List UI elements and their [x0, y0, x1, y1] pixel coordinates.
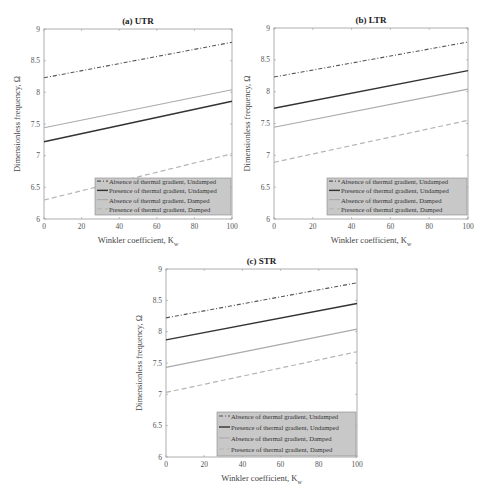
legend: Absence of thermal gradient, UndampedPre…	[217, 412, 356, 456]
x-tick-label: 0	[164, 460, 168, 469]
x-tick-label: 80	[425, 222, 433, 231]
legend-entry: Presence of thermal gradient, Undamped	[341, 187, 450, 194]
y-tick-label: 6.5	[261, 183, 271, 192]
y-tick-label: 7	[266, 151, 270, 160]
y-tick-label: 8.5	[261, 55, 271, 64]
y-tick-label: 8	[36, 88, 40, 97]
x-tick-label: 100	[351, 460, 363, 469]
y-tick-label: 7.5	[153, 359, 163, 368]
x-axis-label: Winkler coefficient, Kw	[221, 473, 302, 485]
y-tick-label: 6.5	[153, 421, 163, 430]
x-tick-label: 80	[191, 222, 199, 231]
legend-entry: Absence of thermal gradient, Undamped	[109, 178, 217, 185]
x-tick-label: 40	[239, 460, 247, 469]
legend-entry: Absence of thermal gradient, Undamped	[341, 178, 449, 185]
y-tick-label: 7	[36, 151, 40, 160]
chart-title: (a) UTR	[122, 16, 154, 26]
legend-entry: Absence of thermal gradient, Damped	[109, 197, 210, 204]
legend-entry: Presence of thermal gradient, Undamped	[109, 187, 218, 194]
x-tick-label: 60	[277, 460, 285, 469]
y-axis-label: Dimensionless frequency, Ω	[242, 75, 252, 171]
legend-entry: Absence of thermal gradient, Undamped	[231, 413, 339, 420]
y-tick-label: 6	[266, 215, 270, 224]
chart-title: (b) LTR	[356, 15, 387, 25]
y-tick-label: 6.5	[31, 183, 41, 192]
legend-entry: Presence of thermal gradient, Damped	[231, 446, 333, 453]
legend-entry: Absence of thermal gradient, Damped	[231, 435, 332, 442]
chart-title: (c) STR	[247, 256, 277, 266]
x-tick-label: 20	[200, 460, 208, 469]
y-tick-label: 8.5	[31, 56, 41, 65]
y-tick-label: 9	[158, 265, 162, 274]
y-tick-label: 8	[266, 87, 270, 96]
legend-entry: Absence of thermal gradient, Damped	[341, 197, 442, 204]
x-tick-label: 40	[348, 222, 356, 231]
x-tick-label: 100	[226, 222, 238, 231]
legend-entry: Presence of thermal gradient, Damped	[341, 206, 443, 213]
chart-panel-1: (a) UTR02040608010066.577.588.59Winkler …	[12, 16, 238, 247]
legend: Absence of thermal gradient, UndampedPre…	[327, 178, 467, 215]
x-tick-label: 0	[42, 222, 46, 231]
y-tick-label: 6	[36, 215, 40, 224]
y-tick-label: 6	[158, 453, 162, 462]
legend-entry: Presence of thermal gradient, Damped	[109, 206, 211, 213]
x-tick-label: 80	[315, 460, 323, 469]
x-tick-label: 40	[115, 222, 123, 231]
x-tick-label: 100	[462, 222, 474, 231]
x-tick-label: 20	[309, 222, 317, 231]
chart-svg: (a) UTR02040608010066.577.588.59Winkler …	[0, 0, 488, 500]
x-tick-label: 0	[272, 222, 276, 231]
y-tick-label: 8.5	[153, 296, 163, 305]
y-tick-label: 7	[158, 390, 162, 399]
legend: Absence of thermal gradient, UndampedPre…	[95, 178, 231, 215]
y-tick-label: 8	[158, 327, 162, 336]
x-axis-label: Winkler coefficient, Kw	[98, 235, 179, 247]
y-tick-label: 9	[266, 24, 270, 33]
x-axis-label: Winkler coefficient, Kw	[331, 235, 412, 247]
chart-panel-2: (b) LTR02040608010066.577.588.59Winkler …	[242, 15, 474, 247]
y-tick-label: 7.5	[261, 119, 271, 128]
y-axis-label: Dimensionless frequency, Ω	[12, 76, 22, 172]
y-tick-label: 9	[36, 25, 40, 34]
legend-entry: Presence of thermal gradient, Undamped	[231, 424, 340, 431]
y-axis-label: Dimensionless frequency, Ω	[134, 315, 144, 411]
y-tick-label: 7.5	[31, 120, 41, 129]
x-tick-label: 60	[387, 222, 395, 231]
x-tick-label: 20	[78, 222, 86, 231]
chart-panel-3: (c) STR02040608010066.577.588.59Winkler …	[134, 256, 363, 485]
x-tick-label: 60	[153, 222, 161, 231]
